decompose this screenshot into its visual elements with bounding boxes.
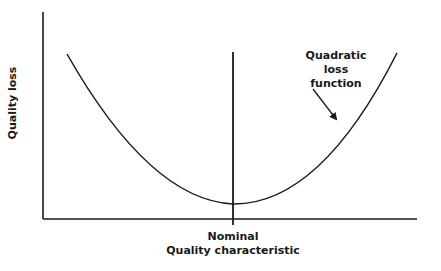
quadratic-loss-diagram: Quadratic loss function Quality loss Nom… bbox=[0, 0, 441, 271]
y-axis-label: Quality loss bbox=[6, 66, 19, 139]
annotation-line-3: function bbox=[310, 77, 361, 90]
annotation-line-2: loss bbox=[324, 63, 349, 76]
annotation-line-1: Quadratic bbox=[306, 49, 367, 62]
x-axis-label-nominal: Nominal bbox=[207, 230, 258, 243]
x-axis-label: Quality characteristic bbox=[166, 244, 300, 257]
annotation-arrow-icon bbox=[313, 89, 336, 119]
